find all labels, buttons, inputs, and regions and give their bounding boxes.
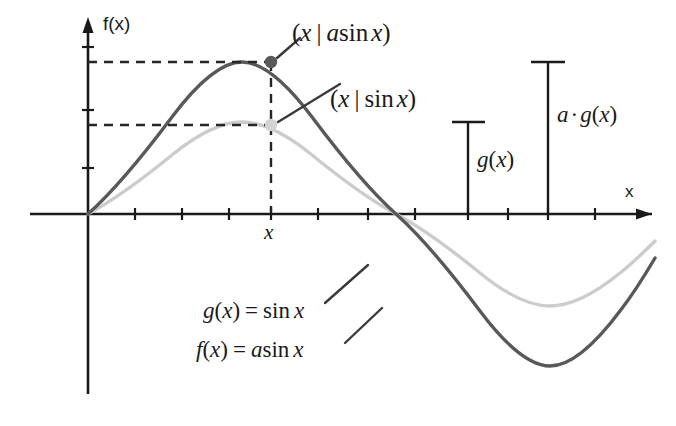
measure-ag-dot: · [569, 102, 581, 127]
figure-canvas [0, 0, 676, 426]
measure-label-g: g(x) [477, 148, 514, 171]
callout-point-g: (x|sinx) [330, 86, 416, 111]
curve-label-g: g(x)=sinx [203, 299, 304, 322]
x-axis-group [30, 208, 652, 220]
y-axis-label: f(x) [103, 14, 130, 33]
measure-g-paren-close: ) [506, 147, 514, 172]
callout-f-fn: sin [339, 19, 368, 46]
dashed-guides [88, 62, 271, 212]
point-marker-f [265, 56, 277, 68]
curve-g-arg: x [290, 298, 304, 323]
point-marker-g [265, 119, 277, 131]
callout-g-fn: sin [364, 85, 393, 112]
measure-ag-paren-close: ) [610, 102, 618, 127]
callout-g-paren-close: ) [408, 85, 416, 112]
callout-f-var: x [300, 19, 311, 46]
measure-ag-coef: a [557, 102, 569, 127]
measure-g-var: x [496, 147, 506, 172]
callout-g-bar: | [349, 85, 364, 112]
measure-ag-name: g [580, 102, 592, 127]
callout-f-paren-close: ) [382, 19, 390, 46]
curve-label-f: f(x)=asinx [196, 338, 304, 361]
curve-f-paren-close: ) [220, 337, 228, 362]
curve-f-paren-open: ( [202, 337, 210, 362]
curve-g-var: x [222, 298, 232, 323]
curve-g-fn: sin [263, 298, 290, 323]
callout-point-f: (x|asinx) [292, 20, 391, 45]
x-axis-label: x [625, 183, 634, 200]
measure-label-ag: a·g(x) [557, 103, 617, 126]
x-axis-arrowhead [636, 209, 652, 220]
leader-func-g [325, 265, 368, 303]
curve-f-coef: a [251, 337, 263, 362]
curve-g-paren-close: ) [232, 298, 240, 323]
curve-f-equals: = [228, 337, 251, 362]
callout-f-bar: | [311, 19, 326, 46]
curve-g-name: g [203, 298, 215, 323]
y-axis-arrowhead [83, 17, 94, 33]
measure-g-name: g [477, 147, 489, 172]
x-tick-label: x [264, 222, 273, 243]
callout-f-coef: a [326, 19, 339, 46]
callout-g-var: x [338, 85, 349, 112]
curve-f-var: x [210, 337, 220, 362]
curve-label-leader-lines [325, 265, 382, 343]
y-axis-group [82, 17, 94, 394]
callout-f-arg: x [368, 19, 382, 46]
curve-f-arg: x [289, 337, 303, 362]
measure-bar-ag [531, 62, 565, 214]
callout-g-arg: x [394, 85, 408, 112]
sine-amplitude-figure: f(x) x x (x|asinx) (x|sinx) g(x)=sinx f(… [0, 0, 676, 426]
curve-f-fn: sin [262, 337, 289, 362]
measure-ag-var: x [599, 102, 609, 127]
curve-g-equals: = [240, 298, 263, 323]
leader-func-f [345, 308, 382, 343]
